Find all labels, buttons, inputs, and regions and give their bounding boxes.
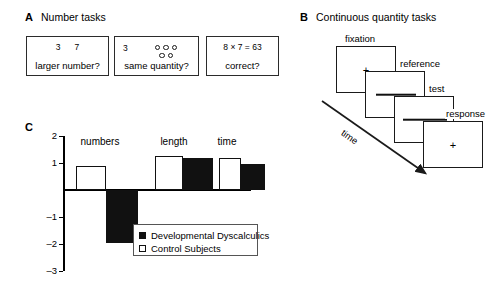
y-tick-mark bbox=[59, 271, 63, 272]
y-tick-mark bbox=[59, 163, 63, 164]
legend-label-controls: Control Subjects bbox=[151, 244, 221, 254]
response-cross-icon: + bbox=[450, 139, 456, 150]
y-tick-label-2: 2 bbox=[41, 131, 57, 141]
y-tick-mark bbox=[59, 136, 63, 137]
sequence-label-response: response bbox=[445, 109, 486, 119]
category-label-numbers: numbers bbox=[70, 136, 130, 147]
legend-item-controls: Control Subjects bbox=[139, 242, 251, 255]
y-tick-label-neg3: –3 bbox=[41, 266, 57, 276]
legend-label-dyscalculics: Developmental Dyscalculics bbox=[151, 231, 269, 241]
category-label-length: length bbox=[144, 136, 204, 147]
y-tick-mark bbox=[59, 244, 63, 245]
sequence-label-reference: reference bbox=[399, 59, 441, 69]
y-tick-label-neg1: –1 bbox=[41, 212, 57, 222]
sequence-label-fixation: fixation bbox=[344, 34, 376, 44]
category-label-time: time bbox=[202, 136, 252, 147]
bar-numbers-control bbox=[76, 166, 106, 190]
legend-swatch-open-icon bbox=[139, 245, 146, 252]
sequence-frame-response: + bbox=[423, 121, 483, 168]
chart-legend: Developmental Dyscalculics Control Subje… bbox=[133, 224, 258, 256]
panel-c-letter: C bbox=[25, 122, 33, 133]
y-tick-label-neg2: –2 bbox=[41, 239, 57, 249]
bar-time-dyscalculics bbox=[241, 164, 265, 190]
bar-length-dyscalculics bbox=[183, 158, 213, 190]
y-axis-line bbox=[63, 136, 65, 271]
bar-time-control bbox=[219, 158, 241, 190]
sequence-label-test: test bbox=[428, 84, 445, 94]
y-tick-mark bbox=[59, 217, 63, 218]
legend-swatch-filled-icon bbox=[139, 232, 146, 239]
y-tick-label-1: 1 bbox=[41, 158, 57, 168]
bar-length-control bbox=[155, 156, 183, 190]
legend-item-dyscalculics: Developmental Dyscalculics bbox=[139, 229, 251, 242]
